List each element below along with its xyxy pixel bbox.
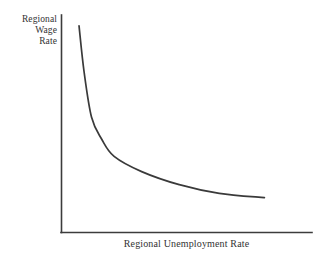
wage-curve-line: [79, 26, 264, 198]
x-axis-label: Regional Unemployment Rate: [61, 238, 312, 250]
wage-curve-figure: Regional Wage Rate Regional Unemployment…: [0, 0, 335, 260]
y-axis-label-line-3: Rate: [0, 36, 57, 47]
y-axis-label-line-2: Wage: [0, 25, 57, 36]
y-axis-label: Regional Wage Rate: [0, 14, 57, 47]
y-axis-label-line-1: Regional: [0, 14, 57, 25]
